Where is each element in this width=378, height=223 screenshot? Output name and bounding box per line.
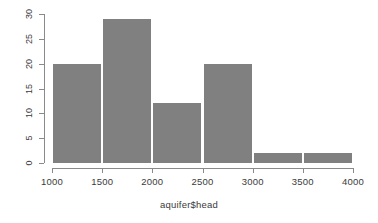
plot-area <box>52 14 353 163</box>
x-axis-tick <box>52 168 53 173</box>
y-axis-tick-label: 15 <box>22 89 36 90</box>
y-axis-tick <box>39 113 44 114</box>
x-axis-tick <box>152 168 153 173</box>
histogram-bar <box>303 153 353 163</box>
x-axis-tick-label: 4000 <box>342 176 364 187</box>
x-axis-tick-label: 2500 <box>192 176 214 187</box>
histogram-bar <box>203 64 253 163</box>
y-axis-tick-label: 5 <box>22 138 36 139</box>
y-axis-tick-label: 20 <box>22 64 36 65</box>
histogram-plot: 051015202530 100015002000250030003500400… <box>0 0 378 223</box>
histogram-bar <box>52 64 102 163</box>
histogram-bar <box>152 103 202 163</box>
y-axis-tick <box>39 39 44 40</box>
x-axis-tick-label: 3000 <box>242 176 264 187</box>
y-axis-tick-label: 10 <box>22 113 36 114</box>
histogram-bar <box>102 19 152 163</box>
y-axis-tick <box>39 89 44 90</box>
x-axis-title: aquifer$head <box>0 199 378 210</box>
x-axis-tick-label: 3500 <box>292 176 314 187</box>
histogram-bar <box>253 153 303 163</box>
x-axis-tick <box>102 168 103 173</box>
x-axis-tick <box>253 168 254 173</box>
y-axis-tick-label: 0 <box>22 163 36 164</box>
x-axis-tick <box>353 168 354 173</box>
x-axis-tick-label: 1500 <box>91 176 113 187</box>
y-axis-tick <box>39 14 44 15</box>
y-axis-tick <box>39 138 44 139</box>
y-axis-tick <box>39 163 44 164</box>
x-axis-tick <box>203 168 204 173</box>
y-axis-tick-label: 25 <box>22 39 36 40</box>
y-axis-tick <box>39 64 44 65</box>
y-axis-tick-label: 30 <box>22 14 36 15</box>
x-axis-tick-label: 2000 <box>141 176 163 187</box>
x-axis-tick <box>303 168 304 173</box>
x-axis-tick-label: 1000 <box>41 176 63 187</box>
y-axis-line <box>44 14 45 163</box>
